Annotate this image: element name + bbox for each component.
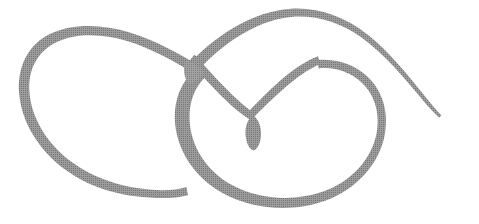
artboard: Interlocking Loops with Teardrop Flouris… (0, 0, 479, 224)
line-art-drawing: Interlocking Loops with Teardrop Flouris… (0, 0, 479, 224)
stroke-left-loop (19, 26, 201, 198)
teardrop-blob (245, 115, 261, 151)
stroke-inner-v (189, 55, 321, 121)
